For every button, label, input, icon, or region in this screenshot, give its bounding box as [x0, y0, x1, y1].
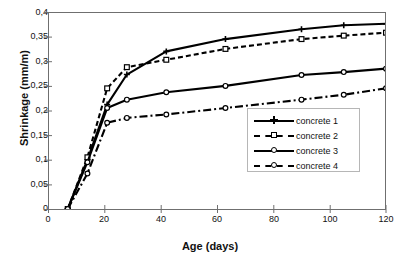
x-tick-label: 0 [28, 214, 68, 224]
data-point [85, 160, 90, 165]
y-tick-label: 0,2 [8, 106, 48, 115]
data-point [299, 37, 304, 42]
data-point [299, 97, 304, 102]
legend-item-concrete-2: concrete 2 [248, 128, 359, 143]
y-tick-label: 0,3 [8, 57, 48, 66]
legend-label: concrete 2 [296, 131, 338, 141]
data-point [105, 120, 110, 125]
data-point [383, 21, 386, 27]
x-tick-label: 40 [141, 214, 181, 224]
chart-figure: Shrinkage (mm/m) 0,4 0,35 0,3 0,25 0,2 0… [0, 0, 399, 259]
y-tick-label: 0,1 [8, 155, 48, 164]
data-point [124, 115, 129, 120]
data-point [124, 65, 129, 70]
data-point [164, 112, 169, 117]
legend-label: concrete 4 [296, 161, 338, 171]
y-tick-label: 0,05 [8, 180, 48, 189]
data-point [341, 33, 346, 38]
legend-item-concrete-1: concrete 1 [248, 113, 359, 128]
x-tick-label: 60 [197, 214, 237, 224]
x-tick-label: 100 [310, 214, 350, 224]
legend-swatch-solid-circle [254, 145, 294, 156]
data-point [223, 47, 228, 52]
y-tick-label: 0,4 [8, 8, 48, 17]
legend-label: concrete 3 [296, 146, 338, 156]
data-point [222, 36, 228, 42]
data-point [65, 207, 70, 209]
data-point [164, 57, 169, 62]
data-point [85, 171, 90, 176]
legend: concrete 1 concrete 2 concrete 3 concret… [247, 108, 360, 172]
legend-item-concrete-4: concrete 4 [248, 158, 359, 173]
legend-swatch-dashed-square [254, 130, 294, 141]
data-point [223, 83, 228, 88]
x-tick-label: 120 [366, 214, 399, 224]
data-point [384, 86, 386, 91]
legend-label: concrete 1 [296, 116, 338, 126]
y-tick-label: 0,35 [8, 32, 48, 41]
data-point [164, 90, 169, 95]
data-point [105, 106, 110, 111]
data-point [384, 66, 386, 71]
data-point [341, 92, 346, 97]
x-tick-label: 20 [84, 214, 124, 224]
data-point [384, 30, 386, 35]
x-tick-label: 80 [254, 214, 294, 224]
data-point [299, 73, 304, 78]
data-point [223, 106, 228, 111]
y-tick-label: 0,15 [8, 131, 48, 140]
data-point [341, 70, 346, 75]
legend-item-concrete-3: concrete 3 [248, 143, 359, 158]
legend-swatch-dashdot-circle [254, 160, 294, 171]
data-point [299, 26, 305, 32]
legend-swatch-solid-plus [254, 115, 294, 126]
y-tick-label: 0 [8, 204, 48, 213]
data-point [124, 97, 129, 102]
data-point [105, 86, 110, 91]
x-axis-title: Age (days) [150, 240, 270, 252]
y-tick-label: 0,25 [8, 81, 48, 90]
data-point [341, 22, 347, 28]
